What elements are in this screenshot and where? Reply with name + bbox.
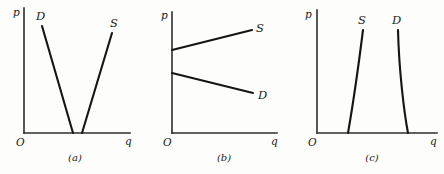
panel-c-supply-label: S: [358, 13, 366, 27]
panel-b-y-axis-label: p: [161, 9, 168, 21]
panel-b-x-axis-label: q: [271, 135, 278, 147]
panel-c-supply-curve: [348, 30, 363, 133]
panel-c-demand-label: D: [391, 13, 401, 27]
panel-c-caption: (c): [365, 152, 379, 163]
panel-a-origin-label: O: [16, 136, 25, 148]
figure-container: p q O D S (a) p q O S D (b) p: [0, 0, 444, 174]
supply-demand-figure: p q O D S (a) p q O S D (b) p: [0, 0, 444, 174]
panel-a-supply-label: S: [110, 16, 118, 30]
panel-c-demand-curve: [398, 30, 408, 133]
panel-b: p q O S D (b): [161, 9, 278, 163]
panel-c-x-axis-label: q: [430, 135, 437, 147]
panel-a-x-axis-label: q: [125, 135, 132, 147]
panel-c-origin-label: O: [308, 136, 317, 148]
panel-b-demand-label: D: [257, 88, 267, 102]
panel-a-demand-label: D: [35, 9, 45, 23]
panel-b-supply-label: S: [256, 21, 264, 35]
panel-b-caption: (b): [217, 152, 231, 163]
panel-b-supply-curve: [172, 30, 252, 50]
panel-c-y-axis-label: p: [305, 8, 312, 20]
panel-c: p q O S D (c): [305, 8, 437, 163]
panel-a-caption: (a): [68, 152, 82, 163]
panel-a-demand-curve: [42, 26, 73, 133]
panel-b-origin-label: O: [163, 136, 172, 148]
panel-a-supply-curve: [82, 33, 112, 133]
panel-b-demand-curve: [172, 73, 253, 93]
panel-a: p q O D S (a): [13, 6, 132, 163]
panel-a-y-axis-label: p: [13, 6, 20, 18]
